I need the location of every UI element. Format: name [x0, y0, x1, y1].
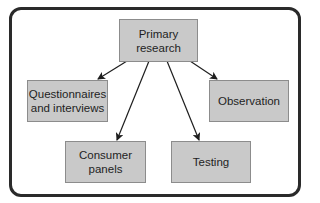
node-primary-research: Primary research — [119, 19, 198, 62]
node-label-line: Primary — [136, 27, 181, 41]
node-label-line: Consumer — [79, 148, 132, 162]
node-label-line: panels — [79, 162, 132, 176]
node-label-line: Testing — [193, 155, 229, 169]
node-questionnaires-and-interviews: Questionnaires and interviews — [27, 80, 108, 122]
node-label-line: and interviews — [29, 101, 106, 115]
node-label-line: Questionnaires — [29, 87, 106, 101]
node-testing: Testing — [171, 141, 251, 183]
node-consumer-panels: Consumer panels — [65, 141, 146, 183]
node-label-line: research — [136, 41, 181, 55]
node-label-line: Observation — [218, 94, 280, 108]
node-observation: Observation — [209, 80, 289, 122]
